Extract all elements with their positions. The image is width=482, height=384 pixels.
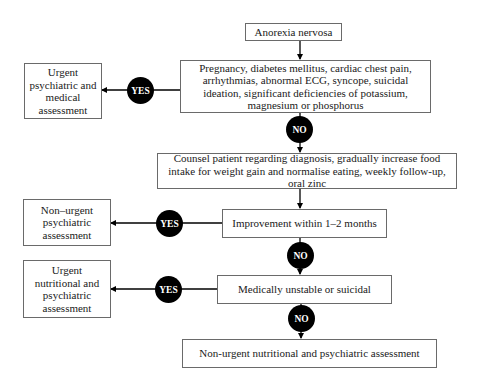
no-badge-3: NO xyxy=(288,305,315,332)
yes-label-3: YES xyxy=(159,285,177,295)
question1-text: Pregnancy, diabetes mellitus, cardiac ch… xyxy=(184,62,427,112)
no-label-2: NO xyxy=(293,251,307,261)
end-box-non-urgent-assessment: Non-urgent nutritional and psychiatric a… xyxy=(182,339,437,368)
yes-badge-3: YES xyxy=(155,276,182,303)
yes-badge-1: YES xyxy=(127,77,154,104)
question3-box: Medically unstable or suicidal xyxy=(217,275,392,304)
outcome-non-urgent-psychiatric: Non–urgent psychiatric assessment xyxy=(23,199,111,246)
yes-label-1: YES xyxy=(131,86,149,96)
yes-label-2: YES xyxy=(160,219,178,229)
question2-box: Improvement within 1–2 months xyxy=(222,209,387,238)
no-label-3: NO xyxy=(294,314,308,324)
question3-text: Medically unstable or suicidal xyxy=(238,283,371,296)
outcome2-text: Non–urgent psychiatric assessment xyxy=(36,204,98,242)
start-label: Anorexia nervosa xyxy=(255,26,333,39)
question1-box: Pregnancy, diabetes mellitus, cardiac ch… xyxy=(180,60,431,113)
outcome-urgent-psychiatric-medical: Urgent psychiatric and medical assessmen… xyxy=(24,63,102,119)
outcome1-text: Urgent psychiatric and medical assessmen… xyxy=(28,66,98,116)
no-label-1: NO xyxy=(292,125,306,135)
connector-lines xyxy=(0,0,482,384)
end-text: Non-urgent nutritional and psychiatric a… xyxy=(199,347,419,360)
question2-text: Improvement within 1–2 months xyxy=(232,217,377,230)
counsel-box: Counsel patient regarding diagnosis, gra… xyxy=(157,153,457,189)
outcome-urgent-nutritional-psychiatric: Urgent nutritional and psychiatric asses… xyxy=(23,260,111,318)
counsel-text: Counsel patient regarding diagnosis, gra… xyxy=(161,152,453,190)
outcome3-text: Urgent nutritional and psychiatric asses… xyxy=(32,264,102,314)
start-box-anorexia-nervosa: Anorexia nervosa xyxy=(245,23,342,41)
yes-badge-2: YES xyxy=(156,210,183,237)
no-badge-1: NO xyxy=(286,116,313,143)
no-badge-2: NO xyxy=(287,242,314,269)
